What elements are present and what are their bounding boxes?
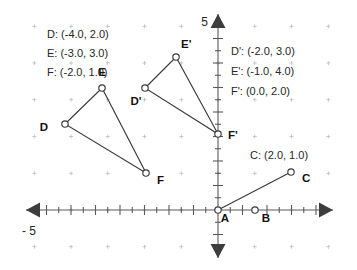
legend-right-line-1: D': (-2.0, 3.0) [231,45,295,57]
grid-dot-v [254,171,255,175]
grid-dot-v [71,171,72,175]
grid-dot-v [328,245,329,249]
grid-dot-v [291,98,292,102]
y-axis-tick-label-5: 5 [201,15,208,29]
point-marker-dp [142,85,148,91]
grid-dot-v [107,171,108,175]
grid-dot-v [291,24,292,28]
point-label-a: A [221,212,229,224]
grid-dot-v [34,171,35,175]
grid-dot-v [181,171,182,175]
grid-dot-v [71,98,72,102]
grid-dot-v [144,245,145,249]
grid-dot-v [144,61,145,65]
point-label-d: D [40,121,48,133]
grid-dot-v [291,245,292,249]
point-label-ep: E' [181,38,192,50]
legend-c-line-1: C: (2.0, 1.0) [250,149,308,161]
legend-right-line-3: F': (0.0, 2.0) [231,85,290,97]
grid-dot-v [107,135,108,139]
grid-dot-v [34,245,35,249]
grid-dot-v [144,135,145,139]
grid-dot-v [328,98,329,102]
grid-dot-v [254,98,255,102]
grid-dot-v [144,24,145,28]
point-label-f: F [157,174,164,186]
grid-dot-v [254,135,255,139]
grid-dot-v [181,61,182,65]
grid-dot-v [328,135,329,139]
legend-left-line-1: D: (-4.0, 2.0) [47,28,109,40]
grid-dot-v [71,135,72,139]
grid-dot-v [34,24,35,28]
grid-dot-v [181,245,182,249]
grid-dot-v [71,245,72,249]
grid-dot-v [71,61,72,65]
point-label-dp: D' [130,95,141,107]
point-marker-ep [173,54,179,60]
grid-dot-v [181,135,182,139]
grid-dot-v [34,61,35,65]
legend-triangle-image: D': (-2.0, 3.0) E': (-1.0, 4.0) F': (0.0… [231,45,295,97]
grid-dot-v [328,61,329,65]
figure-background [0,0,357,270]
legend-left-line-2: E: (-3.0, 3.0) [47,47,108,59]
grid-dot-v [254,245,255,249]
grid-dot-v [254,24,255,28]
grid-dot-v [34,98,35,102]
point-marker-fp [215,131,221,137]
legend-triangle-def: D: (-4.0, 2.0) E: (-3.0, 3.0) F: (-2.0, … [47,28,109,78]
legend-right-line-2: E': (-1.0, 4.0) [231,65,294,77]
point-marker-e [99,85,105,91]
coordinate-plane-figure: DEFD'E'F'ABC 5 - 5 D: (-4.0, 2.0) E: (-3… [0,0,357,270]
grid-dot-v [144,98,145,102]
grid-dot-v [181,98,182,102]
legend-left-line-3: F: (-2.0, 1.0) [47,66,108,78]
point-label-b: B [262,212,270,224]
grid-dot-v [107,61,108,65]
grid-dot-v [291,135,292,139]
legend-point-c: C: (2.0, 1.0) [250,149,308,161]
grid-dot-v [328,171,329,175]
point-label-c: C [302,172,310,184]
point-marker-f [143,170,149,176]
point-marker-c [288,169,294,175]
grid-dot-v [107,245,108,249]
grid-dot-v [181,24,182,28]
coordinate-plane-svg: DEFD'E'F'ABC 5 - 5 D: (-4.0, 2.0) E: (-3… [0,0,357,270]
grid-dot-v [34,135,35,139]
point-marker-b [252,207,258,213]
point-label-fp: F' [228,129,238,141]
x-axis-tick-label-minus-5: - 5 [22,224,36,238]
point-marker-d [62,121,68,127]
grid-dot-v [328,24,329,28]
